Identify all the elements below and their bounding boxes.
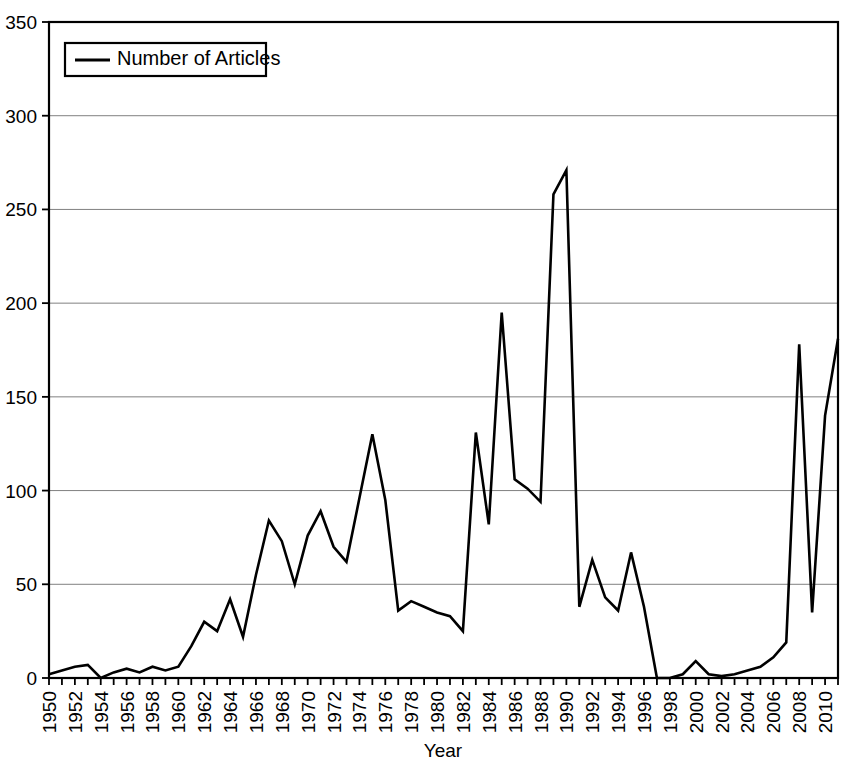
chart-container: 050100150200250300350 195019521954195619… bbox=[0, 0, 853, 764]
x-tick-label-1970: 1970 bbox=[298, 691, 319, 733]
x-tick-label-2008: 2008 bbox=[789, 691, 810, 733]
x-tick-label-1976: 1976 bbox=[375, 691, 396, 733]
x-tick-label-1954: 1954 bbox=[91, 691, 112, 734]
y-tick-label-0: 0 bbox=[26, 668, 37, 689]
x-tick-label-1956: 1956 bbox=[117, 691, 138, 733]
y-tick-label-200: 200 bbox=[5, 293, 37, 314]
chart-background bbox=[0, 0, 853, 764]
y-tick-label-150: 150 bbox=[5, 387, 37, 408]
x-tick-label-1958: 1958 bbox=[142, 691, 163, 733]
x-tick-label-1964: 1964 bbox=[220, 691, 241, 734]
x-tick-label-2004: 2004 bbox=[737, 691, 758, 734]
x-tick-label-1978: 1978 bbox=[401, 691, 422, 733]
legend-label-number-of-articles: Number of Articles bbox=[117, 47, 280, 69]
x-tick-label-1984: 1984 bbox=[479, 691, 500, 734]
y-tick-label-300: 300 bbox=[5, 106, 37, 127]
x-tick-label-1996: 1996 bbox=[634, 691, 655, 733]
x-tick-label-1972: 1972 bbox=[324, 691, 345, 733]
x-tick-label-1992: 1992 bbox=[582, 691, 603, 733]
x-axis-title: Year bbox=[424, 740, 463, 761]
x-tick-label-1982: 1982 bbox=[453, 691, 474, 733]
x-tick-label-1962: 1962 bbox=[194, 691, 215, 733]
x-tick-label-1950: 1950 bbox=[39, 691, 60, 733]
x-tick-label-2000: 2000 bbox=[686, 691, 707, 733]
y-tick-label-100: 100 bbox=[5, 481, 37, 502]
x-tick-label-1998: 1998 bbox=[660, 691, 681, 733]
x-tick-label-1986: 1986 bbox=[505, 691, 526, 733]
x-tick-label-2006: 2006 bbox=[763, 691, 784, 733]
x-tick-label-1990: 1990 bbox=[556, 691, 577, 733]
x-axis-tick-labels: 1950195219541956195819601962196419661968… bbox=[39, 691, 836, 734]
x-tick-label-1980: 1980 bbox=[427, 691, 448, 733]
x-tick-label-1968: 1968 bbox=[272, 691, 293, 733]
line-chart: 050100150200250300350 195019521954195619… bbox=[0, 0, 853, 764]
y-tick-label-50: 50 bbox=[16, 574, 37, 595]
chart-legend: Number of Articles bbox=[65, 43, 280, 76]
y-tick-label-250: 250 bbox=[5, 199, 37, 220]
y-tick-label-350: 350 bbox=[5, 12, 37, 33]
x-tick-label-1966: 1966 bbox=[246, 691, 267, 733]
x-tick-label-2002: 2002 bbox=[712, 691, 733, 733]
x-tick-label-1952: 1952 bbox=[65, 691, 86, 733]
x-tick-label-1988: 1988 bbox=[531, 691, 552, 733]
x-tick-label-1974: 1974 bbox=[349, 691, 370, 734]
x-tick-label-2010: 2010 bbox=[815, 691, 836, 733]
x-tick-label-1960: 1960 bbox=[168, 691, 189, 733]
x-tick-label-1994: 1994 bbox=[608, 691, 629, 734]
